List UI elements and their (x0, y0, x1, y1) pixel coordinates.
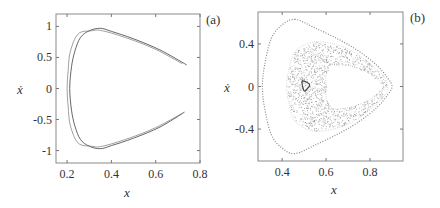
chaotic-point (325, 107, 326, 108)
chaotic-point (290, 69, 291, 70)
chaotic-point (300, 85, 301, 86)
chaotic-point (302, 125, 303, 126)
chaotic-point (348, 64, 349, 65)
chaotic-point (366, 61, 367, 62)
chaotic-point (364, 102, 365, 103)
chaotic-point (313, 74, 314, 75)
poincare-points-b (262, 19, 392, 153)
chaotic-point (315, 56, 316, 57)
chaotic-point (342, 65, 343, 66)
chaotic-point (375, 71, 376, 72)
chaotic-point (322, 128, 323, 129)
chaotic-point (287, 86, 288, 87)
chaotic-point (356, 64, 357, 65)
chaotic-point (303, 113, 304, 114)
chaotic-point (355, 57, 356, 58)
chaotic-point (294, 77, 295, 78)
chaotic-point (321, 79, 322, 80)
chaotic-point (311, 106, 312, 107)
chaotic-point (361, 114, 362, 115)
chaotic-point (312, 49, 313, 50)
chaotic-point (354, 108, 355, 109)
chaotic-point (310, 51, 311, 52)
chaotic-point (328, 106, 329, 107)
chaotic-point (318, 122, 319, 123)
chaotic-point (317, 110, 318, 111)
chaotic-point (322, 65, 323, 66)
chaotic-point (316, 79, 317, 80)
chaotic-point (338, 115, 339, 116)
chaotic-point (319, 66, 320, 67)
chaotic-point (294, 93, 295, 94)
chaotic-point (333, 127, 334, 128)
panel-label-b: (b) (410, 10, 425, 25)
chaotic-point (314, 107, 315, 108)
chaotic-point (315, 55, 316, 56)
chaotic-point (325, 116, 326, 117)
chaotic-point (321, 105, 322, 106)
chaotic-point (300, 55, 301, 56)
chaotic-point (290, 68, 291, 69)
chaotic-point (317, 130, 318, 131)
chaotic-point (365, 106, 366, 107)
chaotic-point (360, 69, 361, 70)
ticks-a: 0.20.40.60.810.50-0.5-1 (33, 14, 208, 181)
chaotic-point (304, 58, 305, 59)
chaotic-point (359, 111, 360, 112)
chaotic-point (303, 82, 304, 83)
chaotic-point (320, 75, 321, 76)
chaotic-point (291, 104, 292, 105)
chaotic-point (342, 125, 343, 126)
chaotic-point (300, 88, 301, 89)
chaotic-point (313, 46, 314, 47)
chaotic-point (296, 92, 297, 93)
chaotic-point (330, 53, 331, 54)
chaotic-point (383, 97, 384, 98)
chaotic-point (330, 124, 331, 125)
chaotic-point (370, 71, 371, 72)
chaotic-point (369, 68, 370, 69)
chaotic-point (312, 52, 313, 53)
chaotic-point (337, 46, 338, 47)
chaotic-point (324, 70, 325, 71)
chaotic-point (374, 99, 375, 100)
chaotic-point (324, 61, 325, 62)
chaotic-point (345, 124, 346, 125)
chaotic-point (304, 83, 305, 84)
chaotic-point (299, 121, 300, 122)
chaotic-point (305, 122, 306, 123)
chaotic-point (297, 77, 298, 78)
chaotic-point (342, 56, 343, 57)
chaotic-point (292, 74, 293, 75)
chaotic-point (375, 103, 376, 104)
chaotic-point (335, 61, 336, 62)
chaotic-point (363, 109, 364, 110)
chaotic-point (296, 90, 297, 91)
chaotic-point (365, 108, 366, 109)
chaotic-point (349, 65, 350, 66)
chaotic-point (361, 107, 362, 108)
chaotic-point (348, 117, 349, 118)
chaotic-point (321, 54, 322, 55)
chaotic-point (306, 101, 307, 102)
chaotic-point (333, 126, 334, 127)
x-tick-label: 0.2 (60, 167, 75, 181)
chaotic-point (309, 118, 310, 119)
chaotic-point (344, 110, 345, 111)
chaotic-point (311, 123, 312, 124)
chaotic-point (333, 49, 334, 50)
chaotic-point (318, 98, 319, 99)
chaotic-point (304, 80, 305, 81)
chaotic-point (318, 115, 319, 116)
chaotic-point (331, 47, 332, 48)
chaotic-point (328, 111, 329, 112)
chaotic-point (313, 92, 314, 93)
chaotic-point (312, 126, 313, 127)
chaotic-point (381, 77, 382, 78)
chaotic-point (351, 108, 352, 109)
chaotic-point (353, 61, 354, 62)
chaotic-point (321, 50, 322, 51)
chaotic-point (312, 88, 313, 89)
chaotic-point (332, 125, 333, 126)
chaotic-point (323, 115, 324, 116)
